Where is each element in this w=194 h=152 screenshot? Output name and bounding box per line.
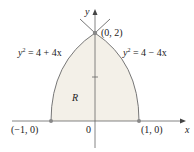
- diagram: y x 0 (0, 2) (−1, 0) (1, 0) R y2 = 4 + 4…: [0, 0, 194, 152]
- x-axis-label: x: [184, 124, 190, 135]
- y-axis-label: y: [84, 6, 90, 17]
- point-top-label: (0, 2): [101, 27, 123, 39]
- y-axis-arrow-icon: [93, 9, 98, 15]
- origin-label: 0: [86, 124, 91, 135]
- point-right-label: (1, 0): [141, 124, 163, 136]
- point-left-label: (−1, 0): [11, 124, 38, 136]
- left-equation: y2 = 4 + 4x: [17, 47, 62, 58]
- point-right: [137, 119, 141, 123]
- point-left: [49, 119, 53, 123]
- point-top: [93, 31, 97, 35]
- region-label: R: [71, 92, 78, 103]
- right-equation: y2 = 4 − 4x: [122, 47, 167, 58]
- x-axis-arrow-icon: [180, 119, 186, 124]
